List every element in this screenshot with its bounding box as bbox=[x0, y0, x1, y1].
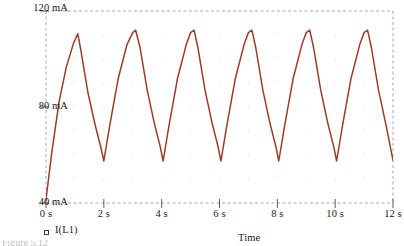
caption-text: Figure 5.12 bbox=[2, 240, 48, 246]
y-axis-label-40ma: 40 mA bbox=[39, 196, 68, 207]
x-axis-label-6s: 6 s bbox=[200, 208, 240, 219]
axis-ticks bbox=[40, 11, 393, 208]
legend-label-i-l1: I(L1) bbox=[55, 224, 78, 235]
caption-remnant: Figure 5.12 bbox=[0, 240, 404, 246]
legend-square-marker-icon bbox=[44, 230, 49, 235]
x-axis-label-8s: 8 s bbox=[257, 208, 297, 219]
figure-container: 120 mA 80 mA 40 mA 0 s2 s4 s6 s8 s10 s12… bbox=[0, 0, 404, 246]
x-axis-label-2s: 2 s bbox=[84, 208, 124, 219]
data-trace-i-l1 bbox=[46, 30, 393, 199]
x-axis-label-4s: 4 s bbox=[142, 208, 182, 219]
grid-lines bbox=[74, 35, 364, 180]
x-axis-label-0s: 0 s bbox=[26, 208, 66, 219]
y-axis-label-120ma: 120 mA bbox=[33, 2, 68, 13]
y-axis-label-80ma: 80 mA bbox=[39, 100, 68, 111]
x-axis-label-10s: 10 s bbox=[315, 208, 355, 219]
x-axis-label-12s: 12 s bbox=[373, 208, 404, 219]
